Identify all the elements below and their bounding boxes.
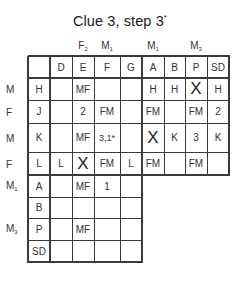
- grid-cell: [94, 240, 120, 262]
- grid-cell: H: [164, 78, 185, 100]
- label-subscript: 3: [199, 46, 202, 52]
- grid-cell: [207, 152, 229, 175]
- label-subscript: 1: [14, 186, 17, 192]
- grid-cell: K: [164, 123, 185, 152]
- grid-cell: [94, 197, 120, 218]
- diagram-title: Clue 3, step 3*: [0, 13, 240, 29]
- grid-cell: [120, 197, 142, 218]
- column-header-a: A: [142, 56, 164, 78]
- grid-cell: 1: [94, 175, 120, 197]
- grid-cell: 3: [185, 123, 207, 152]
- title-asterisk: *: [164, 13, 167, 22]
- column-group-label: M1: [101, 40, 113, 52]
- grid-cell: MF: [72, 218, 94, 240]
- row-header-j: J: [28, 100, 50, 123]
- grid-cell: [120, 123, 142, 152]
- grid-cell: FM: [185, 152, 207, 175]
- grid-cell: [72, 240, 94, 262]
- row-header-k: K: [28, 123, 50, 152]
- grid-cell: 2: [207, 100, 229, 123]
- label-subscript: 3: [14, 229, 17, 235]
- grid-cell: [94, 78, 120, 100]
- row-header-l: L: [28, 152, 50, 175]
- title-text: Clue 3, step 3: [73, 13, 164, 29]
- grid-cell: FM: [94, 152, 120, 175]
- grid-cell: MF: [72, 123, 94, 152]
- grid-cell: X: [185, 78, 207, 100]
- row-header-b: B: [28, 197, 50, 218]
- grid-cell: L: [50, 152, 72, 175]
- column-header-g: G: [120, 56, 142, 78]
- label-subscript: 2: [84, 46, 87, 52]
- row-group-label: M1: [6, 180, 18, 192]
- column-group-label: M3: [190, 40, 202, 52]
- grid-cell: [94, 218, 120, 240]
- grid-cell: L: [120, 152, 142, 175]
- grid-cell: [50, 197, 72, 218]
- grid-cell: 3,1*: [94, 123, 120, 152]
- grid-cell: [50, 123, 72, 152]
- grid-cell: [50, 175, 72, 197]
- grid-cell: X: [142, 123, 164, 152]
- row-group-label: F: [6, 158, 12, 169]
- column-header-f: F: [94, 56, 120, 78]
- column-group-label: F2: [78, 40, 87, 52]
- row-header-sd: SD: [28, 240, 50, 262]
- column-header-d: D: [50, 56, 72, 78]
- column-group-label: M1: [147, 40, 159, 52]
- row-group-label: M: [6, 132, 14, 143]
- grid-cell: FM: [185, 100, 207, 123]
- grid-cell: [164, 100, 185, 123]
- column-header-b: B: [164, 56, 185, 78]
- grid-cell: MF: [72, 175, 94, 197]
- grid-cell: [50, 218, 72, 240]
- grid-cell: [164, 152, 185, 175]
- column-header-p: P: [185, 56, 207, 78]
- grid-cell: H: [207, 78, 229, 100]
- label-letter: F: [6, 158, 12, 169]
- label-letter: M: [6, 132, 14, 143]
- grid-cell: 2: [72, 100, 94, 123]
- grid-cell: [50, 100, 72, 123]
- column-header-e: E: [72, 56, 94, 78]
- label-subscript: 1: [110, 46, 113, 52]
- grid-cell: [50, 78, 72, 100]
- grid-cell: [120, 78, 142, 100]
- row-header-p: P: [28, 218, 50, 240]
- grid-cell: [120, 175, 142, 197]
- grid-cell: [50, 240, 72, 262]
- grid-cell: MF: [72, 78, 94, 100]
- grid-cell: FM: [142, 152, 164, 175]
- grid-cell: FM: [142, 100, 164, 123]
- grid-cell: [120, 100, 142, 123]
- label-letter: M: [6, 84, 14, 95]
- grid-cell: [120, 218, 142, 240]
- grid-cell: [120, 240, 142, 262]
- grid-cell: [72, 197, 94, 218]
- column-header-sd: SD: [207, 56, 229, 78]
- row-group-label: M3: [6, 223, 18, 235]
- row-group-label: F: [6, 106, 12, 117]
- grid-cell: K: [207, 123, 229, 152]
- row-header-h: H: [28, 78, 50, 100]
- row-header-a: A: [28, 175, 50, 197]
- grid-cell: FM: [94, 100, 120, 123]
- label-subscript: 1: [156, 46, 159, 52]
- grid-cell: X: [72, 152, 94, 175]
- row-group-label: M: [6, 84, 14, 95]
- grid-cell: H: [142, 78, 164, 100]
- label-letter: F: [6, 106, 12, 117]
